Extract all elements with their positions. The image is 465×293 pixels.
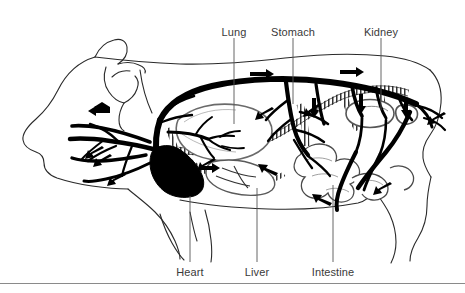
figure-container: Lung Stomach Kidney Heart Liver Intestin… (0, 0, 465, 293)
label-liver: Liver (245, 266, 269, 278)
label-lung: Lung (222, 26, 247, 38)
pig-circulatory-diagram (0, 0, 465, 293)
label-kidney: Kidney (364, 26, 398, 38)
footer-divider (0, 283, 465, 284)
label-intestine: Intestine (312, 266, 354, 278)
label-stomach: Stomach (271, 26, 315, 38)
label-heart: Heart (176, 266, 203, 278)
